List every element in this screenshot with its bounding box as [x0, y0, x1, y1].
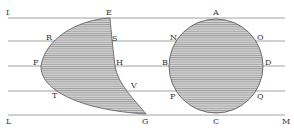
label-E: E: [106, 8, 112, 17]
label-F: F: [33, 58, 39, 67]
label-P: P: [170, 92, 176, 101]
label-S: S: [112, 34, 117, 43]
label-B: B: [162, 58, 168, 67]
label-I: I: [6, 8, 9, 17]
label-G: G: [142, 117, 148, 126]
label-T: T: [52, 91, 58, 100]
label-R: R: [46, 33, 53, 42]
label-O: O: [257, 33, 264, 42]
label-C: C: [213, 117, 219, 126]
label-H: H: [116, 58, 123, 67]
label-L: L: [6, 117, 12, 126]
label-A: A: [212, 8, 219, 17]
label-M: M: [282, 117, 290, 126]
label-N: N: [170, 33, 177, 42]
label-Q: Q: [257, 92, 264, 101]
circle-ABCD: [169, 19, 263, 113]
label-D: D: [265, 58, 271, 67]
label-V: V: [130, 81, 137, 90]
geometry-figure: I L E R S F H T V G A N O B D P Q C M: [0, 0, 294, 133]
